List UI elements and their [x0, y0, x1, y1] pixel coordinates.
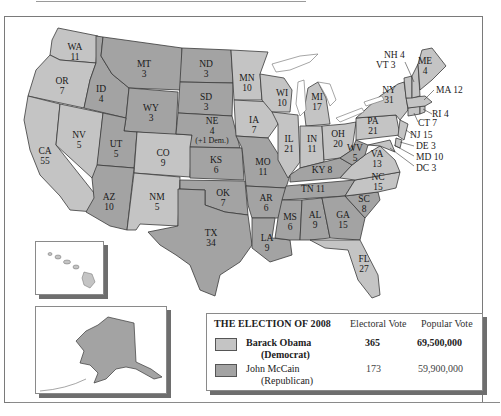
label-ND: ND	[199, 59, 213, 69]
label-CO: CO	[156, 148, 169, 158]
label-TX: TX	[205, 228, 218, 238]
alaska-shape	[36, 307, 166, 393]
svg-text:MI17: MI17	[311, 92, 323, 112]
label-AZ: AZ	[103, 192, 116, 202]
svg-text:FL27: FL27	[358, 254, 369, 274]
candidate-name-obama: Barack Obama	[246, 337, 311, 349]
svg-text:WI10: WI10	[276, 88, 288, 108]
electoral-vote-mccain: 173	[366, 363, 381, 374]
label-WA: WA	[68, 42, 83, 52]
label-FL: FL	[358, 254, 369, 264]
label-SD: SD	[200, 92, 212, 102]
label-SC: SC	[358, 194, 370, 204]
svg-text:VA13: VA13	[371, 149, 384, 169]
candidate-name-mccain: John McCain	[246, 363, 300, 375]
label-MA: MA 12	[436, 85, 463, 95]
label-KS: KS	[210, 155, 222, 165]
label-KY: KY 8	[312, 165, 333, 175]
svg-text:AZ10: AZ10	[103, 192, 116, 212]
label-DE: DE 3	[416, 141, 436, 151]
label-DC: DC 3	[416, 163, 437, 173]
svg-text:IL21: IL21	[284, 134, 294, 154]
label-NC: NC	[371, 172, 384, 182]
label-MO: MO	[255, 157, 270, 167]
label-NM: NM	[149, 192, 165, 202]
label-OH: OH	[331, 129, 345, 139]
label-TN: TN 11	[301, 184, 325, 194]
state-DE	[395, 138, 402, 148]
svg-text:IN11: IN11	[307, 134, 317, 154]
label-WY: WY	[143, 103, 159, 113]
label-CA: CA	[38, 146, 51, 156]
candidate-party-mccain: (Republican)	[261, 375, 313, 387]
svg-text:TX34: TX34	[205, 228, 218, 248]
label-AL: AL	[309, 210, 322, 220]
label-ME: ME	[418, 56, 432, 66]
svg-text:PA21: PA21	[367, 116, 378, 136]
state-FL	[310, 240, 380, 298]
label-LA: LA	[261, 233, 274, 243]
label-MI: MI	[311, 92, 323, 102]
label-WI: WI	[276, 88, 288, 98]
label-IL: IL	[285, 134, 294, 144]
label-MT: MT	[137, 59, 151, 69]
label-NY: NY	[382, 85, 396, 95]
label-OK: OK	[216, 188, 230, 198]
popular-vote-mccain: 59,900,000	[418, 363, 463, 374]
alaska-inset	[35, 306, 167, 394]
label-NV: NV	[72, 130, 86, 140]
candidate-party-obama: (Democrat)	[261, 349, 310, 361]
label-VT: VT 3	[376, 60, 396, 70]
label-IA: IA	[249, 115, 259, 125]
label-NH: NH 4	[384, 50, 405, 60]
election-legend: THE ELECTION OF 2008 Electoral Vote Popu…	[206, 313, 483, 391]
lake-superior	[272, 54, 318, 72]
svg-text:NC15: NC15	[371, 172, 384, 192]
col-popular-header: Popular Vote	[421, 318, 473, 329]
democrat-swatch	[215, 338, 237, 351]
label-AR: AR	[259, 193, 273, 203]
hawaii-islands	[36, 242, 103, 294]
lake-michigan	[296, 80, 306, 116]
label-NE: NE	[206, 116, 219, 126]
label-GA: GA	[336, 210, 350, 220]
electoral-vote-obama: 365	[365, 337, 380, 348]
label-PA: PA	[367, 116, 378, 126]
label-MN: MN	[239, 73, 254, 83]
svg-text:CA55: CA55	[38, 146, 51, 166]
legend-title: THE ELECTION OF 2008	[214, 318, 331, 329]
label-UT: UT	[110, 139, 123, 149]
republican-swatch	[215, 364, 237, 377]
label-NJ: NJ 15	[410, 130, 433, 140]
label-OR: OR	[55, 76, 69, 86]
hawaii-inset	[35, 241, 104, 295]
label-CT: CT 7	[418, 118, 437, 128]
label-MD: MD 10	[416, 152, 443, 162]
col-electoral-header: Electoral Vote	[350, 318, 407, 329]
label-VA: VA	[371, 149, 384, 159]
popular-vote-obama: 69,500,000	[417, 337, 462, 348]
label-WV: WV	[347, 143, 363, 153]
label-ID: ID	[96, 84, 106, 94]
label-MS: MS	[283, 212, 297, 222]
label-IN: IN	[307, 134, 317, 144]
